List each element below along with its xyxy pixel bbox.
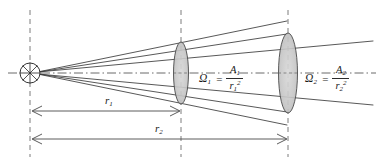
omega-1-symbol: Ω1 [199, 73, 211, 86]
denominator-2: r22 [333, 79, 348, 93]
fraction-2: A2 r22 [332, 65, 349, 93]
point-source-spokes [20, 63, 40, 83]
area-element-2 [278, 33, 298, 113]
fraction-1: A1 r12 [226, 65, 243, 93]
solid-angle-diagram: Ω1 = A1 r12 Ω2 = A2 r22 r1 r2 [0, 0, 382, 165]
mid-cone-upper-ray [40, 21, 287, 72]
mid-cone-lower-ray [40, 75, 287, 126]
point-source-icon [20, 63, 40, 83]
numerator-2: A2 [334, 65, 348, 78]
denominator-1: r12 [227, 79, 242, 93]
inner-cone-lower-ray [40, 74, 287, 112]
solid-angle-1-formula: Ω1 = A1 r12 [199, 65, 243, 93]
omega-2-symbol: Ω2 [305, 73, 317, 86]
equals-sign-1: = [216, 74, 222, 85]
numerator-1: A1 [228, 65, 242, 78]
dimension-r1-label: r1 [105, 94, 113, 108]
area-element-1 [173, 42, 189, 104]
equals-sign-2: = [322, 74, 328, 85]
inner-cone-upper-ray [40, 34, 287, 72]
dimension-r2-label: r2 [155, 122, 163, 136]
solid-angle-2-formula: Ω2 = A2 r22 [305, 65, 349, 93]
